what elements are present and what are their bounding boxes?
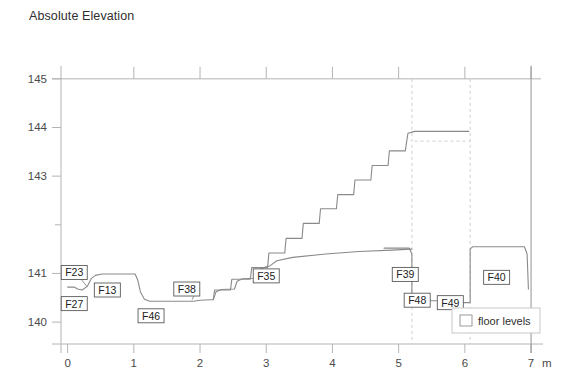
label-text: F48 xyxy=(408,294,426,306)
x-tick-label: 5 xyxy=(395,357,401,369)
legend-swatch-floor-levels xyxy=(460,315,472,326)
label-leader-line xyxy=(81,279,87,287)
label-text: F13 xyxy=(98,284,116,296)
label-text: F27 xyxy=(65,298,83,310)
x-tick-label: 2 xyxy=(197,357,203,369)
x-tick-label: 6 xyxy=(462,357,468,369)
floor-label-F48: F48 xyxy=(404,293,430,307)
left-axis-group xyxy=(52,66,61,353)
series-line-staircase xyxy=(213,131,469,299)
label-text: F39 xyxy=(396,268,414,280)
label-leader-line xyxy=(192,296,194,300)
x-tick-label: 1 xyxy=(131,357,137,369)
floor-label-F38: F38 xyxy=(174,282,200,300)
x-tick-label: 4 xyxy=(329,357,336,369)
y-tick-label: 141 xyxy=(28,267,47,279)
floor-label-F13: F13 xyxy=(94,283,120,297)
floor-label-F46: F46 xyxy=(138,309,164,323)
chart-plot-area: 01234567m 145144143141140 F23F27F13F46F3… xyxy=(0,0,582,391)
y-tick-labels-group: 145144143141140 xyxy=(28,73,48,328)
label-text: F40 xyxy=(488,271,506,283)
x-tick-label: 0 xyxy=(64,357,70,369)
x-axis-unit-label: m xyxy=(542,357,552,369)
floor-label-F27: F27 xyxy=(61,297,87,311)
floor-label-F40: F40 xyxy=(484,270,510,284)
x-tick-label: 7 xyxy=(528,357,534,369)
label-text: F49 xyxy=(441,297,459,309)
y-tick-label: 144 xyxy=(28,121,48,133)
y-tick-label: 145 xyxy=(28,73,47,85)
bottom-axis-group xyxy=(52,344,543,353)
elevation-chart-figure: Absolute Elevation 01234567m 14514414314… xyxy=(0,0,582,391)
legend-group: floor levels xyxy=(452,308,540,333)
label-text: F46 xyxy=(142,310,160,322)
floor-label-F39: F39 xyxy=(392,267,418,281)
y-tick-label: 143 xyxy=(28,170,47,182)
data-series-group xyxy=(68,131,529,302)
legend-label-floor-levels: floor levels xyxy=(478,315,531,327)
label-text: F38 xyxy=(178,283,196,295)
floor-label-F35: F35 xyxy=(253,269,279,283)
x-tick-labels-group: 01234567m xyxy=(64,357,551,369)
floor-label-F23: F23 xyxy=(61,265,87,287)
x-tick-label: 3 xyxy=(263,357,269,369)
label-text: F35 xyxy=(257,270,275,282)
label-text: F23 xyxy=(65,266,83,278)
top-axis-group xyxy=(52,67,541,79)
y-tick-label: 140 xyxy=(28,316,47,328)
